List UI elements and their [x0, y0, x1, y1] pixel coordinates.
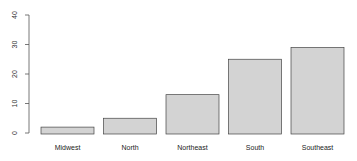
y-axis: 010203040: [11, 11, 29, 135]
y-tick-label: 40: [11, 11, 18, 19]
bars: [41, 47, 344, 134]
bar-chart: 010203040 MidwestNorthNortheastSouthSout…: [0, 0, 357, 161]
x-label-northeast: Northeast: [177, 144, 207, 151]
x-axis-labels: MidwestNorthNortheastSouthSoutheast: [55, 144, 334, 151]
bar-northeast: [166, 95, 219, 134]
y-tick-label: 10: [11, 100, 18, 108]
bar-north: [104, 118, 157, 134]
y-tick-label: 30: [11, 41, 18, 49]
bar-midwest: [41, 127, 94, 134]
x-label-midwest: Midwest: [55, 144, 81, 151]
x-label-north: North: [121, 144, 138, 151]
bar-southeast: [291, 47, 344, 134]
x-label-south: South: [246, 144, 264, 151]
y-tick-label: 0: [11, 131, 18, 135]
y-tick-label: 20: [11, 70, 18, 78]
bar-south: [229, 59, 282, 134]
x-label-southeast: Southeast: [302, 144, 334, 151]
